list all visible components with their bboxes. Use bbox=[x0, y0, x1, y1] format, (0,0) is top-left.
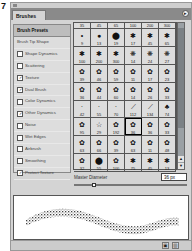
brush-preset-cell[interactable]: ✿36 bbox=[74, 83, 91, 100]
master-diameter-input[interactable]: 36 px bbox=[161, 173, 187, 181]
brush-preset-cell[interactable]: •9 bbox=[74, 29, 91, 46]
brush-preset-cell[interactable]: ❋24 bbox=[142, 47, 159, 64]
brush-tip-icon: ⬤ bbox=[112, 32, 120, 41]
settings-item-shape-dynamics[interactable]: Shape Dynamics bbox=[14, 49, 70, 61]
brush-preset-cell[interactable]: ✱75 bbox=[125, 154, 142, 171]
slider-knob[interactable] bbox=[92, 183, 96, 187]
brush-preset-cell[interactable]: ❋27 bbox=[159, 47, 176, 64]
brush-preset-cell[interactable]: ●13 bbox=[91, 29, 108, 46]
brush-preset-cell[interactable]: ✿59 bbox=[108, 65, 125, 82]
checkbox[interactable] bbox=[17, 158, 23, 164]
brush-preset-cell[interactable]: ✿17 bbox=[142, 65, 159, 82]
checkbox[interactable]: ✓ bbox=[17, 111, 23, 117]
master-diameter-slider[interactable] bbox=[74, 184, 187, 186]
brush-preset-cell[interactable]: ✿11 bbox=[142, 136, 159, 153]
brush-preset-cell[interactable]: ✿63 bbox=[125, 136, 142, 153]
brush-preset-cell[interactable]: ⬤55 bbox=[91, 154, 108, 171]
brush-preset-cell[interactable]: ✿39 bbox=[108, 136, 125, 153]
brush-presets-item[interactable]: Brush Presets bbox=[14, 25, 70, 37]
brush-preset-cell[interactable]: ·70 bbox=[108, 101, 125, 118]
flyout-menu-icon[interactable]: ▸ bbox=[182, 10, 189, 17]
grid-scrollbar[interactable]: ▲ ▼ bbox=[177, 22, 185, 170]
brush-preset-cell[interactable]: ✿192 bbox=[108, 118, 125, 135]
checkbox[interactable] bbox=[17, 99, 23, 105]
brush-preset-cell[interactable]: ✿36 bbox=[142, 118, 159, 135]
brush-preset-cell[interactable]: ✿33 bbox=[159, 83, 176, 100]
brush-size-label: 17 bbox=[131, 41, 135, 46]
scroll-up-icon[interactable]: ▲ bbox=[178, 156, 184, 162]
brush-preset-cell[interactable]: ✱65 bbox=[159, 29, 176, 46]
scroll-down-icon[interactable]: ▼ bbox=[178, 163, 184, 169]
brush-preset-cell[interactable]: ✿23 bbox=[159, 65, 176, 82]
brush-preset-cell[interactable]: ✱45 bbox=[142, 29, 159, 46]
grid-header-cell[interactable]: 300 bbox=[159, 23, 176, 28]
brush-preset-cell[interactable]: ❋14 bbox=[125, 47, 142, 64]
trash-icon[interactable]: ▥ bbox=[172, 242, 179, 249]
brush-tip-icon: ✿ bbox=[147, 139, 153, 148]
brush-preset-cell[interactable]: ✿44 bbox=[91, 83, 108, 100]
brush-size-label: 39 bbox=[114, 148, 118, 153]
brush-tip-icon: ✱ bbox=[147, 157, 153, 166]
settings-item-other-dynamics[interactable]: ✓Other Dynamics bbox=[14, 108, 70, 120]
brush-preset-cell[interactable]: ✱17 bbox=[125, 29, 142, 46]
brush-preset-cell[interactable]: ·42 bbox=[74, 101, 91, 118]
checkbox[interactable] bbox=[17, 123, 23, 129]
brush-preset-cell[interactable]: ⬤19 bbox=[108, 29, 125, 46]
brush-tip-icon: ☆ bbox=[96, 121, 102, 130]
grid-header-cell[interactable]: 65 bbox=[108, 23, 125, 28]
settings-item-color-dynamics[interactable]: Color Dynamics bbox=[14, 96, 70, 108]
brush-size-label: 63 bbox=[131, 148, 135, 153]
brush-preset-cell[interactable]: ✿14 bbox=[125, 83, 142, 100]
settings-item-brush-tip-shape[interactable]: Brush Tip Shape bbox=[14, 37, 70, 49]
brush-preset-cell[interactable]: ✿95 bbox=[74, 118, 91, 135]
grid-header-cell[interactable]: 100 bbox=[125, 23, 142, 28]
brush-preset-cell[interactable]: ·55 bbox=[91, 101, 108, 118]
brush-preset-cell[interactable]: ✿60 bbox=[108, 83, 125, 100]
brush-size-label: 29 bbox=[97, 130, 101, 135]
settings-item-wet-edges[interactable]: Wet Edges bbox=[14, 132, 70, 144]
brush-preset-cell[interactable]: ⟋112 bbox=[125, 101, 142, 118]
brush-preset-cell[interactable]: ✿11 bbox=[125, 65, 142, 82]
settings-item-texture[interactable]: ✓Texture bbox=[14, 73, 70, 85]
settings-item-scattering[interactable]: Scattering bbox=[14, 61, 70, 73]
checkbox[interactable]: ✓ bbox=[17, 87, 23, 93]
brush-preset-cell[interactable]: ✱100 bbox=[74, 47, 91, 64]
settings-item-protect-texture[interactable]: ✓Protect Texture bbox=[14, 168, 70, 180]
brush-preset-cell[interactable]: ☆29 bbox=[91, 118, 108, 135]
checkbox[interactable] bbox=[17, 51, 23, 57]
brush-size-label: 100 bbox=[79, 59, 86, 64]
brush-tip-icon: ❋ bbox=[130, 50, 136, 59]
grid-row: ·42·55·70⟋112⟋134♣74 bbox=[74, 101, 176, 119]
checkbox[interactable]: ✓ bbox=[17, 170, 23, 176]
brush-preset-cell[interactable]: ✱13 bbox=[159, 154, 176, 171]
brush-preset-cell[interactable]: ✱200 bbox=[91, 47, 108, 64]
brush-preset-cell[interactable]: ♣74 bbox=[159, 101, 176, 118]
brush-preset-cell[interactable]: ✿33 bbox=[159, 118, 176, 135]
brush-preset-cell[interactable]: ✿66 bbox=[91, 136, 108, 153]
brush-preset-cell[interactable]: ✿48 bbox=[159, 136, 176, 153]
brush-preset-cell[interactable]: ✿63 bbox=[74, 136, 91, 153]
checkbox[interactable] bbox=[17, 135, 23, 141]
scroll-thumb[interactable] bbox=[178, 28, 184, 128]
brush-preset-cell[interactable]: ✿100 bbox=[108, 154, 125, 171]
brush-preset-cell[interactable]: ✿36 bbox=[125, 118, 142, 135]
grid-header-cell[interactable]: 200 bbox=[142, 23, 159, 28]
brush-preset-cell[interactable]: ✿46 bbox=[91, 65, 108, 82]
brush-preset-cell[interactable]: ✿32 bbox=[74, 154, 91, 171]
checkbox[interactable] bbox=[17, 146, 23, 152]
settings-item-smoothing[interactable]: Smoothing bbox=[14, 156, 70, 168]
tab-brushes[interactable]: Brushes bbox=[12, 10, 46, 20]
brush-preset-cell[interactable]: ✱45 bbox=[142, 154, 159, 171]
brush-preset-cell[interactable]: ✿39 bbox=[74, 65, 91, 82]
grid-header-cell[interactable]: 45 bbox=[91, 23, 108, 28]
settings-item-noise[interactable]: Noise bbox=[14, 120, 70, 132]
brush-preset-cell[interactable]: ✿26 bbox=[142, 83, 159, 100]
checkbox[interactable]: ✓ bbox=[17, 75, 23, 81]
grid-header-cell[interactable]: 35 bbox=[74, 23, 91, 28]
settings-item-dual-brush[interactable]: ✓Dual Brush bbox=[14, 85, 70, 97]
settings-item-airbrush[interactable]: Airbrush bbox=[14, 144, 70, 156]
brush-preset-cell[interactable]: ⟋134 bbox=[142, 101, 159, 118]
checkbox[interactable] bbox=[17, 63, 23, 69]
brush-preset-cell[interactable]: ✱300 bbox=[108, 47, 125, 64]
new-preset-icon[interactable]: ▣ bbox=[162, 242, 169, 249]
